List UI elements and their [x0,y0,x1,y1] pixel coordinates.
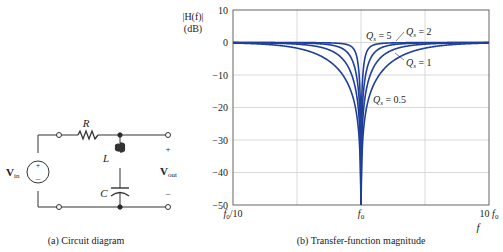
inductor-symbol [116,143,125,152]
circuit-labels: + – R L C Vin + Vout – (a) Circuit diagr… [6,117,177,247]
x-tick-f0: f0 [358,208,365,221]
inductor-label: L [102,152,109,164]
y-tick-labels: 100−10−20−30−40−50 [212,5,228,211]
annotation-q5: Qs = 5 [366,30,392,43]
x-axis-label: f [476,221,481,233]
resistor-label: R [82,117,90,129]
y-axis-label-line2: (dB) [184,23,202,35]
figure: + – R L C Vin + Vout – (a) Circuit diagr… [0,0,503,252]
plot-caption: (b) Transfer-function magnitude [297,235,426,247]
y-tick-label: −40 [212,167,228,178]
plot-axis-labels: 100−10−20−30−40−50 |H(f)| (dB) f0/10 f0 … [182,5,499,248]
y-tick-label: −20 [212,102,228,113]
input-terminal-top [57,133,62,138]
annotation-q2: Qs = 2 [406,26,432,39]
source-minus: – [35,173,41,183]
resistor-symbol [78,131,98,139]
plot-area [233,10,489,205]
x-tick-10f0: 10 f0 [480,208,499,221]
y-tick-label: −10 [212,70,228,81]
circuit-caption: (a) Circuit diagram [48,235,125,247]
output-terminal-top [166,133,171,138]
annotation-q1: Qs = 1 [406,57,432,70]
circuit-diagram [27,131,171,210]
input-terminal-bottom [57,205,62,210]
source-plus: + [36,161,41,170]
y-tick-label: 10 [218,5,228,16]
capacitor-label: C [100,187,108,199]
vout-plus: + [165,144,170,154]
output-terminal-bottom [166,205,171,210]
vout-minus: – [165,188,171,198]
annotation-q05: Qs = 0.5 [373,94,406,107]
y-tick-label: −30 [212,135,228,146]
leader-q2 [396,32,404,41]
vout-label: Vout [160,165,177,179]
y-tick-label: 0 [223,37,228,48]
y-axis-label-line1: |H(f)| [182,11,203,23]
vin-label: Vin [6,166,20,180]
